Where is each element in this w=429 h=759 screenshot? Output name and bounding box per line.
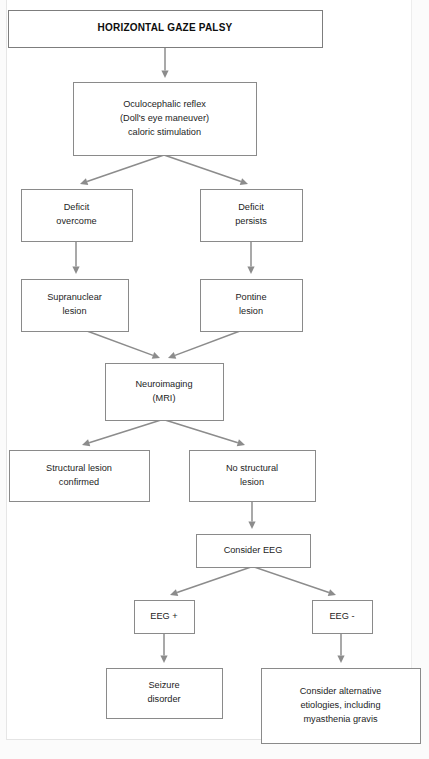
node-consider-eeg: Consider EEG xyxy=(197,535,311,568)
node-label-consider-alternative-etiologies-line-2: etiologies, including xyxy=(300,700,380,710)
node-structural-lesion-confirmed: Structural lesionconfirmed xyxy=(10,451,150,502)
arrow-head-icon xyxy=(248,522,255,530)
node-label-supranuclear-lesion-line-1: Supranuclear xyxy=(47,292,102,302)
node-consider-alternative-etiologies: Consider alternativeetiologies, includin… xyxy=(262,669,421,744)
node-label-deficit-overcome-line-2: overcome xyxy=(56,216,96,226)
arrow-head-icon xyxy=(247,267,254,275)
node-label-neuroimaging-line-1: Neuroimaging xyxy=(135,379,192,389)
connector-neuroimaging-to-structural-lesion-confirmed xyxy=(89,420,161,443)
node-pontine-lesion: Pontinelesion xyxy=(201,280,303,332)
connector-consider-eeg-to-eeg-positive xyxy=(177,567,251,593)
connector-neuroimaging-to-no-structural-lesion xyxy=(165,420,238,443)
node-label-deficit-persists-line-1: Deficit xyxy=(238,202,264,212)
node-label-pontine-lesion-line-1: Pontine xyxy=(235,292,266,302)
arrow-head-icon xyxy=(337,656,344,664)
connector-oculocephalic-to-deficit-persists xyxy=(164,155,241,182)
node-label-structural-lesion-confirmed-line-1: Structural lesion xyxy=(46,463,112,473)
node-label-neuroimaging-line-2: (MRI) xyxy=(153,393,176,403)
arrow-head-icon xyxy=(237,439,245,446)
node-label-supranuclear-lesion-line-2: lesion xyxy=(62,306,86,316)
node-label-pontine-lesion-line-2: lesion xyxy=(239,306,263,316)
node-label-no-structural-lesion-line-1: No structural xyxy=(226,463,278,473)
arrow-head-icon xyxy=(80,178,88,185)
node-label-deficit-overcome-line-1: Deficit xyxy=(64,202,90,212)
node-title: HORIZONTAL GAZE PALSY xyxy=(9,11,323,48)
arrow-head-icon xyxy=(82,439,90,446)
flowchart-page: HORIZONTAL GAZE PALSYOculocephalic refle… xyxy=(0,0,429,759)
node-label-eeg-positive: EEG + xyxy=(150,611,177,621)
node-deficit-persists: Deficitpersists xyxy=(201,190,303,242)
arrow-head-icon xyxy=(161,71,168,79)
connector-pontine-lesion-to-neuroimaging xyxy=(175,331,240,355)
node-label-oculocephalic-line-1: Oculocephalic reflex xyxy=(123,99,206,109)
node-supranuclear-lesion: Supranuclearlesion xyxy=(22,280,129,332)
node-neuroimaging: Neuroimaging(MRI) xyxy=(106,364,224,421)
connector-oculocephalic-to-deficit-overcome xyxy=(87,155,164,182)
node-no-structural-lesion: No structurallesion xyxy=(190,451,316,502)
arrow-head-icon xyxy=(160,656,167,664)
node-label-no-structural-lesion-line-2: lesion xyxy=(240,477,264,487)
node-eeg-positive: EEG + xyxy=(135,601,195,634)
node-label-seizure-disorder-line-2: disorder xyxy=(147,694,180,704)
node-label-consider-alternative-etiologies-line-3: myasthenia gravis xyxy=(303,714,377,724)
node-label-consider-eeg: Consider EEG xyxy=(224,545,283,555)
node-label-oculocephalic-line-3: caloric stimulation xyxy=(128,127,201,137)
flowchart-canvas: HORIZONTAL GAZE PALSYOculocephalic refle… xyxy=(0,0,429,759)
node-label-oculocephalic-line-2: (Doll's eye maneuver) xyxy=(120,113,209,123)
arrow-head-icon xyxy=(240,178,248,185)
node-eeg-negative: EEG - xyxy=(313,601,373,634)
node-label-structural-lesion-confirmed-line-2: confirmed xyxy=(59,477,99,487)
node-deficit-overcome: Deficitovercome xyxy=(22,190,133,242)
node-label-deficit-persists-line-2: persists xyxy=(235,216,267,226)
node-label-eeg-negative: EEG - xyxy=(329,611,354,621)
arrow-head-icon xyxy=(328,589,336,596)
connector-consider-eeg-to-eeg-negative xyxy=(254,567,329,593)
node-label-consider-alternative-etiologies-line-1: Consider alternative xyxy=(300,686,382,696)
arrow-head-icon xyxy=(72,267,79,275)
node-label-title: HORIZONTAL GAZE PALSY xyxy=(98,22,233,33)
arrow-head-icon xyxy=(170,589,178,596)
connector-supranuclear-lesion-to-neuroimaging xyxy=(87,331,153,355)
node-seizure-disorder: Seizuredisorder xyxy=(107,669,223,719)
node-oculocephalic: Oculocephalic reflex(Doll's eye maneuver… xyxy=(74,83,257,156)
nodes-layer: HORIZONTAL GAZE PALSYOculocephalic refle… xyxy=(9,11,421,744)
node-label-seizure-disorder-line-1: Seizure xyxy=(148,680,179,690)
